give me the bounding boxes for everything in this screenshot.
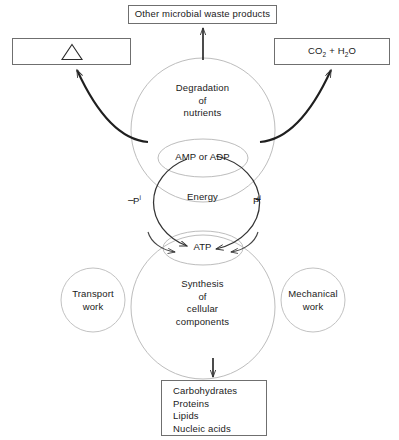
cycle-arc-left-dephosphorylation [154,159,187,246]
macromolecule-item: Lipids [173,410,266,423]
waste-products-box: Other microbial waste products [128,5,277,24]
phosphate-uptake-sign: + [255,194,261,205]
macromolecule-item: Proteins [173,398,266,411]
atp-node-outline [163,231,243,265]
energy-cycle-diagram: Other microbial waste products CO2 + H2O… [0,0,399,440]
co2-water-label: CO2 + H2O [308,45,356,58]
macromolecule-item: Carbohydrates [173,385,266,398]
macromolecules-box: Carbohydrates Proteins Lipids Nucleic ac… [161,380,267,436]
heat-box [12,38,131,65]
diagram-vector-layer [0,0,399,440]
synthesis-circle [131,235,275,379]
co2-middle: + H [326,45,344,56]
arrow-to-heat [77,70,148,142]
mechanical-work-circle [281,268,345,332]
transport-work-circle [61,268,125,332]
delta-heat-symbol-icon [59,42,85,62]
co2-water-box: CO2 + H2O [274,38,390,65]
phosphate-release-sign: – [128,194,134,205]
macromolecule-item: Nucleic acids [173,423,266,436]
waste-products-label: Other microbial waste products [135,8,270,21]
water-suffix: O [348,45,356,56]
amp-adp-node-outline [158,139,248,177]
co2-prefix: CO [308,45,323,56]
